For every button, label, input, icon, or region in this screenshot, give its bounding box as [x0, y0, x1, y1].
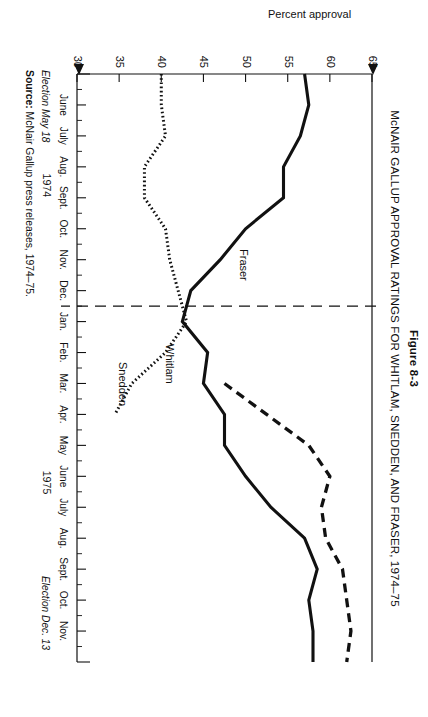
x-tick-label: May — [58, 436, 69, 455]
figure-page: Figure 8-3 McNAIR GALLUP APPROVAL RATING… — [0, 0, 428, 717]
figure-title: McNAIR GALLUP APPROVAL RATINGS FOR WHITL… — [389, 0, 402, 717]
y-tick-label: 50 — [241, 46, 253, 68]
x-tick-label: Dec. — [58, 280, 69, 301]
y-tick-marks — [77, 74, 372, 82]
year-label-1974: 1974 — [41, 174, 53, 198]
x-tick-label: Aug. — [58, 528, 69, 549]
x-tick-label: Sept. — [58, 186, 69, 210]
y-tick-label: 45 — [198, 46, 210, 68]
x-tick-label: Aug. — [58, 156, 69, 177]
year-label-1975: 1975 — [41, 471, 53, 495]
x-tick-label: June — [58, 465, 69, 487]
y-axis-title: Percent approval — [268, 8, 351, 20]
x-tick-label: Apr. — [58, 405, 69, 423]
x-tick-label: July — [58, 127, 69, 145]
election-end-note: Election Dec. 13 — [40, 576, 51, 650]
series-label-snedden: Snedden — [117, 362, 129, 406]
election-start-note: Election May 18 — [40, 70, 51, 142]
x-tick-label: June — [58, 94, 69, 116]
x-tick-label: July — [58, 498, 69, 516]
x-tick-label: Nov. — [58, 621, 69, 641]
y-tick-label: 60 — [325, 46, 337, 68]
series-line-whitlam — [182, 74, 317, 662]
source-text: McNair Gallup press releases, 1974–75. — [24, 109, 35, 297]
x-tick-label: Nov. — [58, 250, 69, 270]
y-tick-label: 65 — [367, 46, 379, 68]
y-tick-label: 40 — [156, 46, 168, 68]
y-tick-label: 30 — [72, 46, 84, 68]
y-tick-label: 55 — [283, 46, 295, 68]
source-label: Source: — [24, 70, 35, 109]
series-label-whitlam: Whitlam — [164, 344, 176, 384]
figure-number: Figure 8-3 — [408, 0, 420, 717]
x-tick-label: Sept. — [58, 557, 69, 581]
x-tick-label: Mar. — [58, 374, 69, 394]
x-minor-tick-marks — [77, 89, 82, 646]
x-tick-label: Oct. — [58, 219, 69, 238]
source-note: Source: McNair Gallup press releases, 19… — [24, 70, 35, 297]
x-tick-label: Feb. — [58, 342, 69, 362]
x-tick-label: Oct. — [58, 591, 69, 610]
y-tick-label: 35 — [114, 46, 126, 68]
series-label-fraser: Fraser — [238, 249, 250, 281]
x-tick-label: Jan. — [58, 312, 69, 331]
plot-area: Whitlam Snedden Fraser — [77, 74, 372, 662]
